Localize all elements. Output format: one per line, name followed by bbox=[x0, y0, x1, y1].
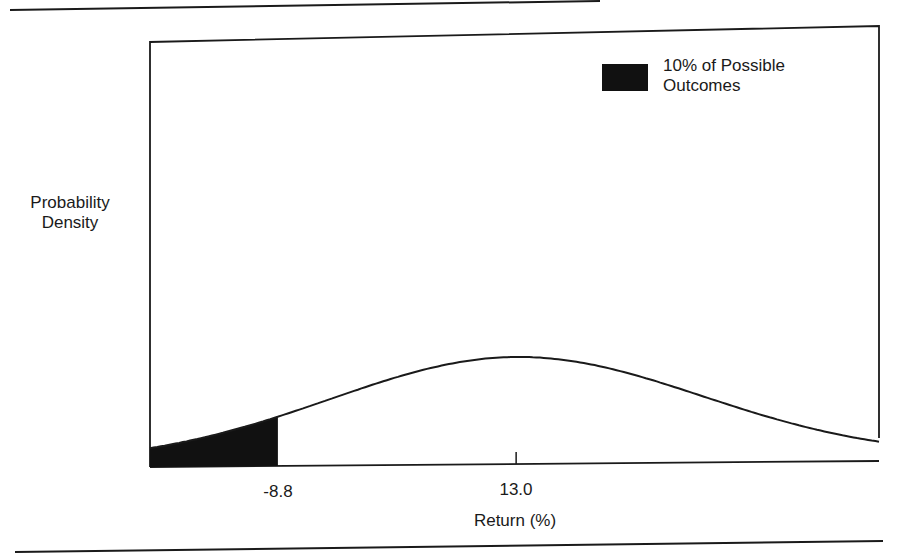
legend-label: 10% of Possible Outcomes bbox=[663, 56, 863, 96]
legend-label-line1: 10% of Possible bbox=[663, 56, 863, 76]
shaded-tail-region bbox=[150, 417, 278, 467]
bottom-rule bbox=[15, 541, 883, 552]
y-axis-label-line1: Probability bbox=[14, 193, 126, 213]
y-axis-label: Probability Density bbox=[14, 193, 126, 233]
legend-swatch bbox=[602, 64, 648, 91]
y-axis-label-line2: Density bbox=[14, 213, 126, 233]
top-rule bbox=[10, 1, 600, 10]
x-tick-label-center: 13.0 bbox=[476, 480, 556, 500]
x-axis-label: Return (%) bbox=[440, 511, 590, 531]
legend-label-line2: Outcomes bbox=[663, 76, 863, 96]
x-tick-label-left: -8.8 bbox=[238, 482, 318, 502]
